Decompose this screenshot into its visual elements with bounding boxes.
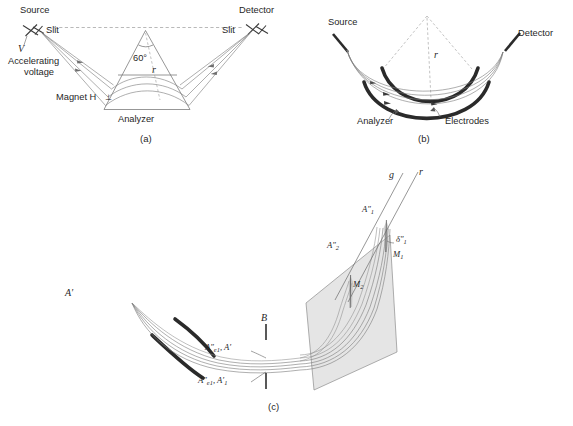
panel-a-radius-label: r bbox=[152, 64, 156, 75]
panel-a-source-label: Source bbox=[20, 5, 49, 15]
panel-a-detector-slit bbox=[246, 24, 268, 35]
panel-c-image-top-second: , A′ bbox=[220, 342, 231, 352]
panel-c-image-a1-main: A″ bbox=[361, 204, 371, 214]
panel-a-caption: (a) bbox=[140, 133, 152, 144]
panel-a-analyzer-label: Analyzer bbox=[118, 114, 154, 124]
panel-c-caption: (c) bbox=[268, 401, 279, 412]
panel-c-delta-sub: 1 bbox=[404, 238, 407, 245]
panel-c-detection-plane bbox=[306, 235, 397, 390]
panel-c-group: A′ A″e1, A′ A″e1, A′1 B g r A″1 A″2 δ″1 bbox=[64, 166, 423, 412]
panel-b-flow-arrow-2 bbox=[384, 101, 391, 105]
panel-a-detector-label: Detector bbox=[239, 5, 274, 15]
panel-a-accelerating-voltage-line1: Accelerating bbox=[8, 56, 59, 66]
panel-a-ion-paths bbox=[106, 77, 190, 106]
physics-diagram-svg: Source Slit V Accelerating voltage 60° r… bbox=[0, 0, 573, 426]
panel-c-image-label-bottom: A″e1, A′1 bbox=[197, 375, 227, 386]
panel-b-detector-label: Detector bbox=[518, 28, 553, 38]
panel-b-electrodes-leader bbox=[434, 108, 440, 117]
panel-a-slit-right-label: Slit bbox=[222, 25, 235, 35]
panel-b-electrodes-label: Electrodes bbox=[445, 116, 489, 126]
panel-c-image-label-top: A″e1, A′ bbox=[204, 342, 231, 353]
panel-a-magnet-label: Magnet H bbox=[56, 92, 96, 102]
panel-b-electrodes-arrowhead bbox=[430, 107, 435, 112]
panel-a-magnet-label-group: Magnet H ⊥ bbox=[56, 92, 112, 102]
panel-c-image-bottom-second: , A′ bbox=[213, 375, 224, 385]
svg-text:A″e1, A′1: A″e1, A′1 bbox=[197, 375, 227, 386]
panel-c-m1-label: M1 bbox=[392, 249, 403, 260]
panel-a-slit-left-label: Slit bbox=[46, 25, 59, 35]
figure-root: Source Slit V Accelerating voltage 60° r… bbox=[0, 0, 573, 426]
panel-a-outgoing-beam bbox=[180, 32, 251, 106]
panel-c-image-a2-sub: 2 bbox=[336, 244, 340, 251]
panel-c-image-a2-label: A″2 bbox=[326, 240, 340, 251]
panel-a-magnet-perp-icon: ⊥ bbox=[105, 92, 112, 102]
panel-c-a-prime-label: A′ bbox=[64, 287, 74, 298]
panel-a-beam-arrow-4 bbox=[211, 72, 217, 75]
svg-text:A″e1, A′: A″e1, A′ bbox=[204, 342, 231, 353]
panel-b-outer-electrode bbox=[382, 68, 478, 101]
panel-c-delta-label: δ″1 bbox=[396, 234, 407, 245]
panel-c-image-a2-main: A″ bbox=[326, 240, 336, 250]
panel-c-image-bottom-a: A″ bbox=[197, 375, 207, 385]
panel-b-radius-label: r bbox=[434, 49, 438, 60]
panel-b-source-bar bbox=[333, 34, 348, 52]
panel-c-slit-b-label: B bbox=[261, 312, 267, 323]
panel-c-label-leader-top bbox=[251, 351, 266, 358]
panel-b-source-label: Source bbox=[328, 17, 357, 27]
panel-b-caption: (b) bbox=[418, 133, 430, 144]
panel-a-angle-label: 60° bbox=[133, 53, 147, 63]
panel-b-analyzer-label: Analyzer bbox=[357, 116, 393, 126]
panel-c-label-leader-bottom bbox=[251, 372, 266, 382]
panel-c-image-bottom-second-sub: 1 bbox=[224, 379, 227, 386]
panel-a-voltage-symbol: V bbox=[18, 43, 26, 54]
panel-a-source-slit bbox=[23, 25, 44, 46]
panel-c-outer-plate bbox=[152, 335, 203, 378]
panel-c-m1-sub: 1 bbox=[400, 253, 403, 260]
panel-a-group: Source Slit V Accelerating voltage 60° r… bbox=[8, 5, 274, 144]
panel-c-image-a1-label: A″1 bbox=[361, 204, 374, 215]
panel-c-image-top-a: A″ bbox=[204, 342, 214, 352]
panel-a-accelerating-voltage-line2: voltage bbox=[24, 67, 54, 77]
panel-b-group: Source Detector r Analyzer Electrodes (b… bbox=[328, 16, 553, 144]
panel-c-line-r-label: r bbox=[419, 166, 423, 177]
panel-c-line-g-label: g bbox=[389, 169, 394, 180]
panel-c-image-a1-sub: 1 bbox=[371, 208, 374, 215]
